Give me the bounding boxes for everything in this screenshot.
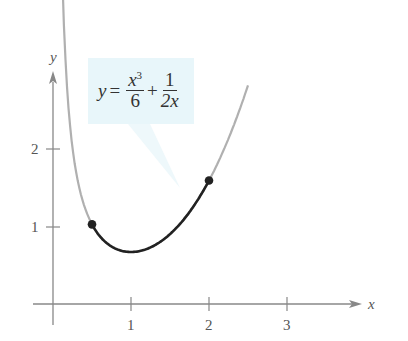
curve-full [62,0,248,252]
endpoint-right [205,176,214,185]
x-tick-label-2: 2 [205,318,213,333]
eq-lhs: y [98,80,106,102]
equation-callout: y = x3 6 + 1 2x [88,58,194,124]
x-tick-label-3: 3 [283,318,291,333]
frac1-den: 6 [130,91,140,111]
frac2-den: 2x [161,91,179,111]
x-tick-label-1: 1 [127,318,135,333]
fraction-2: 1 2x [161,70,179,111]
frac1-num: x [128,69,136,90]
eq-equals: = [109,80,120,102]
equation: y = x3 6 + 1 2x [98,70,182,111]
x-axis-label: x [368,297,375,312]
chart-canvas [0,0,408,341]
curve-arc-highlight [92,181,209,253]
y-tick-label-1: 1 [31,220,39,235]
frac2-num: 1 [163,70,177,91]
frac1-exp: 3 [137,69,143,81]
fraction-1: x3 6 [126,70,144,111]
endpoint-left [88,220,97,229]
eq-plus: + [147,80,158,102]
y-axis-label: y [50,50,57,65]
callout-pointer [128,124,180,188]
y-tick-label-2: 2 [31,142,39,157]
